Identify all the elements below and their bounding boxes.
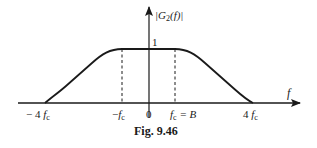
tick-label-4fc: 4 fc <box>243 108 258 122</box>
x-axis-label: f <box>287 86 292 100</box>
figure-canvas: |G2(f)| 1 f − 4 fc −fc 0 fc = B 4 fc Fig… <box>0 0 317 148</box>
tick-label-neg-4fc: − 4 fc <box>26 108 50 122</box>
tick-label-neg-fc: −fc <box>112 108 125 122</box>
y-axis-label: |G2(f)| <box>155 9 183 23</box>
level-one-label: 1 <box>152 36 158 48</box>
tick-label-zero: 0 <box>146 108 152 120</box>
tick-label-fc-equals-b: fc = B <box>170 108 197 122</box>
figure-caption: Fig. 9.46 <box>134 124 178 138</box>
